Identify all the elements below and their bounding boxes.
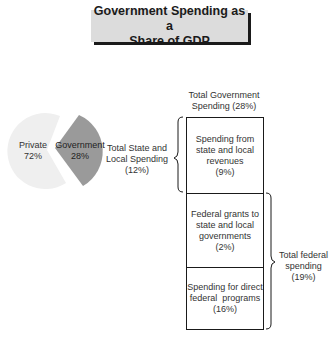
label-line: (12%) xyxy=(104,165,170,176)
box-line: revenues xyxy=(206,156,243,167)
box-line: (2%) xyxy=(215,242,234,253)
box-line: Federal grants to xyxy=(191,209,259,220)
box-line: federal programs xyxy=(190,293,261,304)
label-total-government: Total Government Spending (28%) xyxy=(180,90,268,112)
box-line: Spending from xyxy=(196,134,255,145)
box-line: Spending for direct xyxy=(187,282,263,293)
box-line: state and local xyxy=(196,145,254,156)
label-line: Total federal xyxy=(276,250,331,261)
label-line: Local Spending xyxy=(104,154,170,165)
government-label: Government xyxy=(50,140,110,151)
box-direct-federal-programs: Spending for direct federal programs (16… xyxy=(186,267,264,330)
label-line: Total State and xyxy=(104,143,170,154)
box-line: (16%) xyxy=(213,304,237,315)
box-line: (9%) xyxy=(215,167,234,178)
label-line: spending xyxy=(276,261,331,272)
box-federal-grants: Federal grants to state and local govern… xyxy=(186,193,264,268)
label-line: Total Government xyxy=(180,90,268,101)
box-state-local-revenues: Spending from state and local revenues (… xyxy=(186,117,264,194)
label-total-state-local: Total State and Local Spending (12%) xyxy=(104,143,170,176)
box-line: governments xyxy=(199,231,251,242)
brace-federal xyxy=(266,193,275,329)
label-line: (19%) xyxy=(276,272,331,283)
label-line: Spending (28%) xyxy=(180,101,268,112)
government-value: 28% xyxy=(50,151,110,162)
brace-state-local xyxy=(174,117,183,192)
box-line: state and local xyxy=(196,220,254,231)
label-total-federal: Total federal spending (19%) xyxy=(276,250,331,283)
pie-label-government: Government 28% xyxy=(50,140,110,162)
